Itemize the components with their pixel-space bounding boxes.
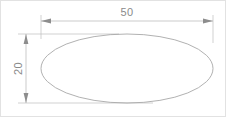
arrow-head-bottom-icon bbox=[24, 93, 29, 103]
drawing-svg-root: 50 20 bbox=[1, 1, 226, 117]
technical-drawing-canvas: 50 20 bbox=[0, 0, 226, 117]
ellipse-shape bbox=[41, 34, 213, 103]
dimension-label-width: 50 bbox=[120, 6, 133, 18]
dimension-label-height: 20 bbox=[12, 62, 24, 75]
arrow-head-right-icon bbox=[203, 19, 213, 24]
arrow-head-left-icon bbox=[41, 19, 51, 24]
dimension-width: 50 bbox=[41, 6, 213, 23]
extension-lines-group bbox=[18, 15, 213, 103]
arrow-head-top-icon bbox=[24, 34, 29, 44]
dimension-height: 20 bbox=[12, 34, 29, 103]
